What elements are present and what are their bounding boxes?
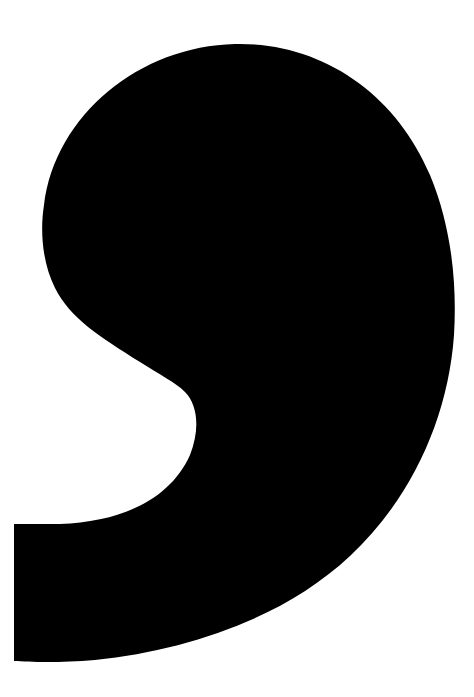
canvas (0, 0, 474, 697)
comma-glyph-icon (0, 0, 474, 697)
